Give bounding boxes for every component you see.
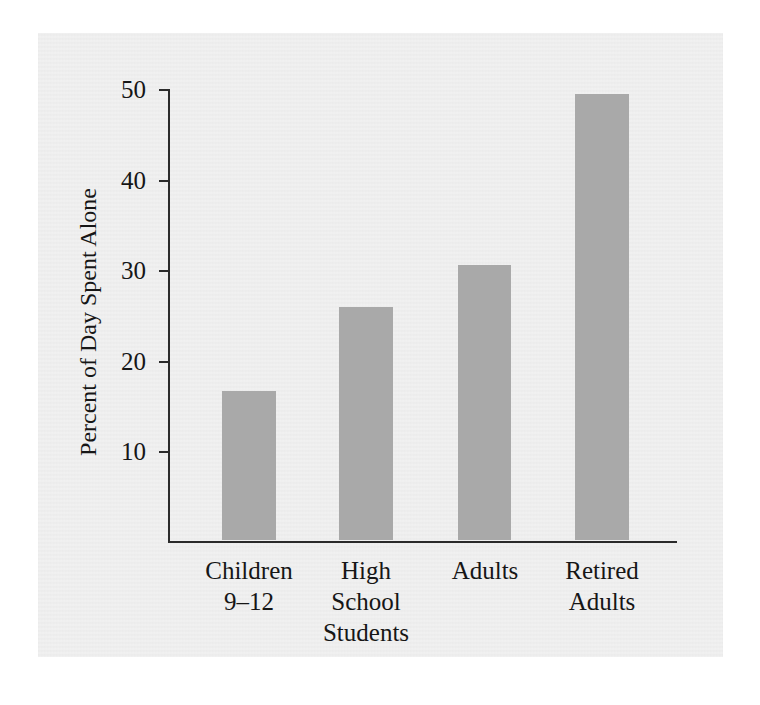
x-category-label-adults: Adults	[425, 555, 545, 586]
bar-adults	[458, 265, 511, 540]
x-category-label-high-school-students: High School Students	[306, 555, 426, 648]
y-tick-label-20: 20	[121, 349, 146, 374]
y-tick-label-10: 10	[121, 439, 146, 464]
figure: Percent of Day Spent Alone 10 20 30 40 5…	[0, 0, 760, 705]
y-tick-40: 40	[159, 180, 169, 182]
y-axis-line	[168, 89, 170, 543]
y-tick-30: 30	[159, 270, 169, 272]
x-category-label-children-9-12: Children 9–12	[189, 555, 309, 617]
y-axis-label: Percent of Day Spent Alone	[76, 188, 100, 456]
y-tick-50: 50	[159, 89, 169, 91]
x-category-label-retired-adults: Retired Adults	[542, 555, 662, 617]
bar-children-9-12	[222, 391, 276, 540]
x-axis-line	[168, 541, 677, 543]
y-tick-20: 20	[159, 361, 169, 363]
y-tick-label-50: 50	[121, 77, 146, 102]
bar-high-school-students	[339, 307, 393, 540]
plot-area: 10 20 30 40 50 Children 9–12 High School…	[168, 89, 677, 542]
y-tick-10: 10	[159, 451, 169, 453]
y-tick-label-40: 40	[121, 168, 146, 193]
y-tick-label-30: 30	[121, 258, 146, 283]
bar-retired-adults	[575, 94, 629, 540]
